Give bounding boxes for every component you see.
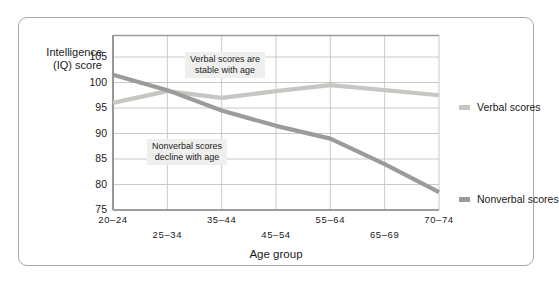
y-axis-tick-90: 90 xyxy=(81,127,107,139)
x-axis-tick-45-54: 45–54 xyxy=(261,229,290,240)
y-axis-tick-100: 100 xyxy=(81,76,107,88)
y-axis-tick-85: 85 xyxy=(81,152,107,164)
x-axis-tick-25-34: 25–34 xyxy=(153,229,182,240)
annotation-nonverbal-scores: Nonverbal scores decline with age xyxy=(147,139,227,165)
annotation-verbal-line2: stable with age xyxy=(190,65,260,76)
annotation-nonverbal-line2: decline with age xyxy=(152,152,222,163)
y-axis-tick-105: 105 xyxy=(81,50,107,62)
annotation-verbal-scores: Verbal scores are stable with age xyxy=(185,52,265,78)
annotation-nonverbal-line1: Nonverbal scores xyxy=(152,141,222,152)
y-axis-tick-80: 80 xyxy=(81,178,107,190)
legend-item-nonverbal-scores: Nonverbal scores xyxy=(459,193,559,205)
legend-item-verbal-scores: Verbal scores xyxy=(459,101,541,113)
y-axis-tick-95: 95 xyxy=(81,101,107,113)
x-axis-title: Age group xyxy=(113,248,439,261)
legend-label-nonverbal: Nonverbal scores xyxy=(477,193,559,205)
x-axis-tick-55-64: 55–64 xyxy=(316,214,345,225)
annotation-verbal-line1: Verbal scores are xyxy=(190,54,260,65)
x-axis-tick-70-74: 70–74 xyxy=(424,214,453,225)
legend-label-verbal: Verbal scores xyxy=(477,101,541,113)
legend-swatch-nonverbal xyxy=(459,197,470,202)
legend-swatch-verbal xyxy=(459,105,470,110)
x-axis-tick-35-44: 35–44 xyxy=(207,214,236,225)
x-axis-tick-65-69: 65–69 xyxy=(370,229,399,240)
x-axis-tick-20-24: 20–24 xyxy=(98,214,127,225)
